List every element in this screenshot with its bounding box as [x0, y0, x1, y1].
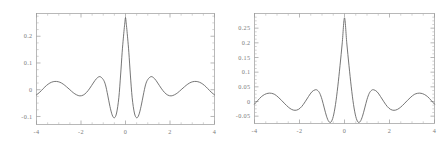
- left-xtick-label: -4: [34, 128, 40, 135]
- left-xtick-label: 2: [168, 128, 171, 135]
- chart-panel-left: -4-2024-0.100.10.2: [0, 0, 223, 145]
- left-xtick-label: 4: [213, 128, 216, 135]
- right-chart-svg: -4-2024-0.0500.050.10.150.20.25: [223, 0, 446, 145]
- right-xtick-label: 2: [388, 127, 391, 134]
- figure-container: -4-2024-0.100.10.2 -4-2024-0.0500.050.10…: [0, 0, 446, 145]
- left-axis-ticks: [37, 14, 215, 125]
- left-ytick-label: 0: [29, 86, 32, 93]
- right-xtick-label: -4: [252, 127, 258, 134]
- left-chart-svg: -4-2024-0.100.10.2: [0, 0, 223, 145]
- right-xtick-label: 4: [433, 127, 436, 134]
- left-ytick-label: 0.2: [24, 32, 33, 39]
- right-xtick-label: -2: [297, 127, 303, 134]
- right-ytick-label: -0.05: [236, 112, 251, 119]
- left-data-curve: [37, 18, 215, 118]
- left-ytick-label: 0.1: [24, 59, 33, 66]
- right-plot-frame: [255, 14, 435, 124]
- left-ytick-label: -0.1: [21, 113, 32, 120]
- chart-panel-right: -4-2024-0.0500.050.10.150.20.25: [223, 0, 446, 145]
- left-xtick-label: -2: [78, 128, 84, 135]
- left-plot-frame: [37, 14, 215, 125]
- left-tick-labels: -4-2024-0.100.10.2: [21, 32, 216, 134]
- right-ytick-label: 0.25: [238, 24, 250, 31]
- left-xtick-label: 0: [124, 128, 127, 135]
- right-axis-ticks: [255, 14, 435, 124]
- right-ytick-label: 0.15: [238, 54, 250, 61]
- right-ytick-label: 0: [247, 98, 250, 105]
- right-ytick-label: 0.2: [242, 39, 251, 46]
- right-ytick-label: 0.05: [238, 83, 250, 90]
- right-ytick-label: 0.1: [242, 68, 251, 75]
- right-tick-labels: -4-2024-0.0500.050.10.150.20.25: [236, 24, 436, 133]
- right-xtick-label: 0: [343, 127, 346, 134]
- right-data-curve: [255, 18, 435, 123]
